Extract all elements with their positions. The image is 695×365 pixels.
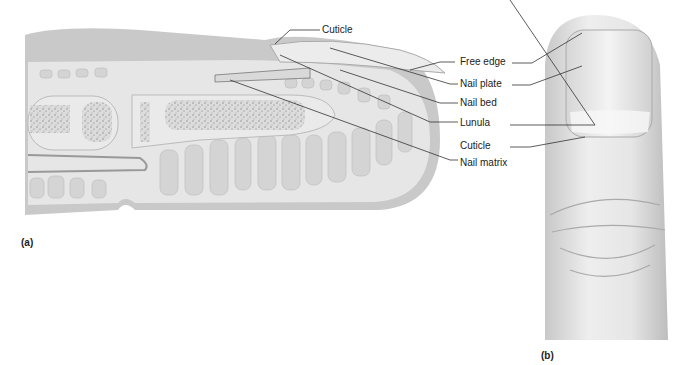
- label-nail-bed: Nail bed: [460, 97, 497, 109]
- label-nail-plate: Nail plate: [460, 78, 502, 90]
- finger-cross-section: [25, 28, 445, 215]
- label-cuticle-b: Cuticle: [460, 140, 491, 152]
- panel-a-tag: (a): [21, 237, 33, 248]
- label-nail-matrix: Nail matrix: [460, 157, 507, 169]
- fingertip-dorsal-view: [545, 15, 668, 340]
- nail-anatomy-illustration: [0, 0, 695, 365]
- panel-b-tag: (b): [541, 350, 554, 361]
- label-lunula: Lunula: [460, 117, 490, 129]
- label-free-edge: Free edge: [460, 56, 506, 68]
- label-cuticle-a: Cuticle: [322, 24, 353, 36]
